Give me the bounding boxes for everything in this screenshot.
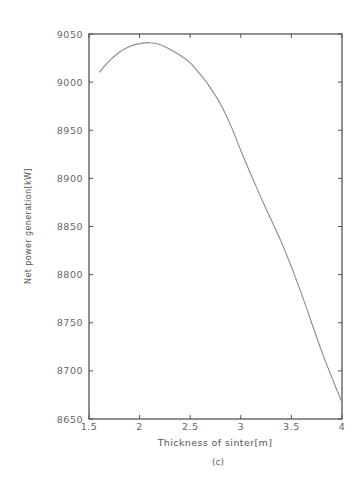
series-line-net-power — [99, 43, 342, 403]
x-tick-label: 3.5 — [283, 421, 300, 432]
x-tick-label: 1.5 — [81, 421, 98, 432]
y-tick-label: 9000 — [57, 77, 83, 88]
x-tick-label: 3 — [238, 421, 245, 432]
x-axis-ticks: 1.522.533.54 — [81, 34, 346, 432]
figure-caption: (c) — [212, 457, 224, 467]
y-tick-label: 8850 — [57, 221, 83, 232]
x-tick-label: 2 — [136, 421, 143, 432]
y-tick-label: 8900 — [57, 173, 83, 184]
x-tick-label: 4 — [339, 421, 346, 432]
y-tick-label: 8700 — [57, 365, 83, 376]
plot-frame — [89, 34, 342, 419]
y-axis-ticks: 865087008750880088508900895090009050 — [57, 29, 342, 425]
x-tick-label: 2.5 — [182, 421, 199, 432]
plot-area-border — [89, 34, 342, 419]
x-axis-title: Thickness of sinter[m] — [157, 437, 273, 448]
y-tick-label: 8950 — [57, 125, 83, 136]
y-tick-label: 8650 — [57, 414, 83, 425]
line-chart: 865087008750880088508900895090009050 1.5… — [0, 0, 358, 488]
y-tick-label: 8800 — [57, 269, 83, 280]
y-tick-label: 9050 — [57, 29, 83, 40]
y-axis-title: Net power generation[kW] — [24, 168, 33, 284]
y-tick-label: 8750 — [57, 317, 83, 328]
